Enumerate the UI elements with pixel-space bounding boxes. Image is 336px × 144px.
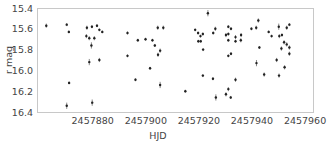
- data-point: [212, 31, 214, 34]
- marker: [230, 96, 232, 98]
- x-axis-label: HJD: [149, 130, 166, 141]
- marker: [278, 35, 280, 37]
- marker: [96, 24, 98, 26]
- x-tick-label: 2457900: [125, 115, 167, 126]
- data-point: [234, 78, 236, 82]
- y-tick-label: 15.4: [12, 3, 33, 14]
- data-point: [230, 96, 232, 99]
- marker: [288, 23, 290, 25]
- data-point: [154, 44, 156, 47]
- marker: [126, 55, 128, 57]
- data-point: [202, 74, 204, 77]
- marker: [151, 39, 153, 41]
- data-point: [234, 35, 236, 39]
- marker: [200, 40, 202, 42]
- marker: [257, 19, 259, 21]
- marker: [234, 36, 236, 38]
- data-point: [225, 33, 227, 37]
- marker: [149, 67, 151, 69]
- y-tick-label: 16.0: [12, 65, 33, 76]
- y-tick-label: 16.4: [12, 107, 33, 118]
- marker: [267, 31, 269, 33]
- marker: [255, 62, 257, 64]
- marker: [144, 38, 146, 40]
- marker: [225, 93, 227, 95]
- marker: [66, 105, 68, 107]
- data-point: [194, 28, 196, 31]
- data-point: [278, 34, 280, 38]
- data-point: [199, 35, 201, 38]
- marker: [227, 39, 229, 41]
- data-point: [227, 54, 229, 57]
- marker: [91, 26, 93, 28]
- data-point: [278, 24, 280, 30]
- data-point: [250, 27, 252, 30]
- data-point: [202, 48, 204, 51]
- data-point: [197, 40, 199, 43]
- marker: [98, 59, 100, 61]
- marker: [286, 43, 288, 45]
- data-point: [98, 58, 100, 62]
- data-point: [257, 18, 259, 22]
- marker: [68, 82, 70, 84]
- data-point: [283, 65, 285, 69]
- marker: [134, 79, 136, 81]
- marker: [66, 23, 68, 25]
- marker: [199, 35, 201, 37]
- data-point: [126, 31, 128, 34]
- data-point: [159, 49, 161, 53]
- marker: [258, 46, 260, 48]
- marker: [214, 28, 216, 30]
- data-point: [288, 45, 290, 49]
- marker: [197, 32, 199, 34]
- marker: [215, 96, 217, 98]
- data-point: [126, 54, 128, 57]
- marker: [278, 26, 280, 28]
- data-point: [157, 26, 159, 30]
- marker: [207, 12, 209, 14]
- data-point: [258, 46, 260, 49]
- marker: [278, 74, 280, 76]
- data-point: [91, 25, 93, 28]
- y-tick-label: 15.6: [12, 23, 33, 34]
- marker: [157, 27, 159, 29]
- data-point: [184, 90, 186, 93]
- data-point: [93, 36, 95, 40]
- data-point: [98, 28, 100, 31]
- marker: [240, 39, 242, 41]
- data-point: [227, 39, 229, 42]
- data-point: [283, 40, 285, 44]
- data-point: [202, 33, 204, 36]
- data-point: [159, 82, 161, 88]
- marker: [154, 44, 156, 46]
- marker: [159, 84, 161, 86]
- data-point: [45, 24, 47, 28]
- marker: [137, 39, 139, 41]
- light-curve-chart: 15.415.615.816.016.216.4 245788024579002…: [0, 0, 336, 144]
- data-point: [227, 87, 229, 91]
- data-point: [149, 67, 151, 70]
- marker: [98, 29, 100, 31]
- data-point: [88, 59, 90, 65]
- data-point: [281, 34, 283, 37]
- data-point: [66, 103, 68, 109]
- data-point: [197, 31, 199, 34]
- data-point: [207, 10, 209, 16]
- x-axis-ticks: 24578802457900245792024579402457960: [72, 115, 327, 126]
- data-point: [101, 30, 103, 33]
- data-points: [45, 10, 290, 109]
- data-point: [263, 72, 265, 76]
- data-point: [144, 38, 146, 41]
- x-tick-label: 2457960: [284, 115, 326, 126]
- marker: [230, 28, 232, 30]
- marker: [227, 26, 229, 28]
- marker: [101, 31, 103, 33]
- x-tick-label: 2457920: [178, 115, 220, 126]
- marker: [90, 44, 92, 46]
- data-point: [91, 100, 93, 106]
- marker: [68, 31, 70, 33]
- data-point: [68, 81, 70, 84]
- data-point: [212, 77, 214, 80]
- data-point: [230, 52, 232, 55]
- data-point: [85, 34, 87, 38]
